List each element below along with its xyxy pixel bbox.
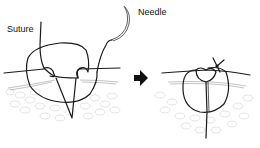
panel-after [155,58,253,138]
suture-to-needle [97,40,112,72]
wound-incision [56,78,76,118]
skin-surface-after [162,70,250,75]
suture-label: Suture [7,24,34,34]
skin-layer-left-a [8,80,55,88]
arrow-icon [134,70,148,86]
suture-diagram: Suture Needle [0,0,260,148]
skin-surface-left [4,68,120,73]
skin-layer-left-b [10,82,52,90]
suture-thread [26,22,97,102]
skin-layer-right-b [82,82,116,84]
wound-closed [206,82,207,138]
tissue-texture-left [6,89,120,121]
skin-layer-right-a [80,80,118,82]
panel-before: Suture Needle [4,6,167,121]
wound-closed-edge [208,82,209,112]
needle-label: Needle [138,7,167,17]
needle-icon [111,6,130,41]
